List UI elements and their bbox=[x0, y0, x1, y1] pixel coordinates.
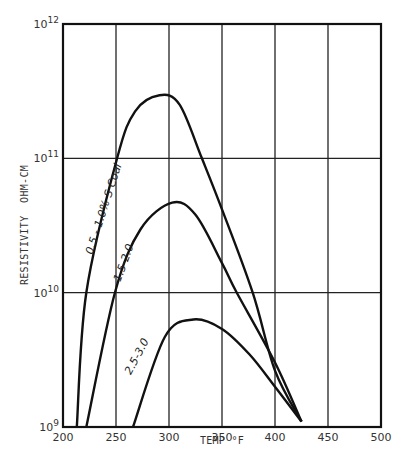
x-tick-label: 300 bbox=[159, 431, 180, 444]
x-tick-label: 400 bbox=[265, 431, 286, 444]
curve-label-mid-sulfur: 1.5-2.0 bbox=[111, 242, 137, 283]
x-axis-label: TEMP °F bbox=[200, 435, 244, 446]
x-tick-label: 500 bbox=[371, 431, 392, 444]
y-axis-ticks: 109101010111012 bbox=[34, 15, 60, 434]
x-tick-label: 450 bbox=[318, 431, 339, 444]
x-tick-label: 200 bbox=[53, 431, 74, 444]
y-tick-label: 1010 bbox=[34, 284, 60, 300]
resistivity-chart: 200250300350400450500 109101010111012 TE… bbox=[0, 0, 406, 470]
x-tick-label: 250 bbox=[106, 431, 127, 444]
y-tick-label: 1011 bbox=[34, 149, 59, 165]
curve-label-low-sulfur: 0.5 - 1.0% S Coal bbox=[83, 162, 125, 256]
curve-label-high-sulfur: 2.5-3.0 bbox=[122, 336, 152, 377]
grid-lines bbox=[63, 24, 381, 427]
curves bbox=[77, 95, 302, 427]
curve-mid-sulfur bbox=[86, 202, 301, 427]
y-tick-label: 1012 bbox=[34, 15, 59, 31]
y-axis-label: RESISTIVITY OHM-CM bbox=[19, 165, 30, 285]
